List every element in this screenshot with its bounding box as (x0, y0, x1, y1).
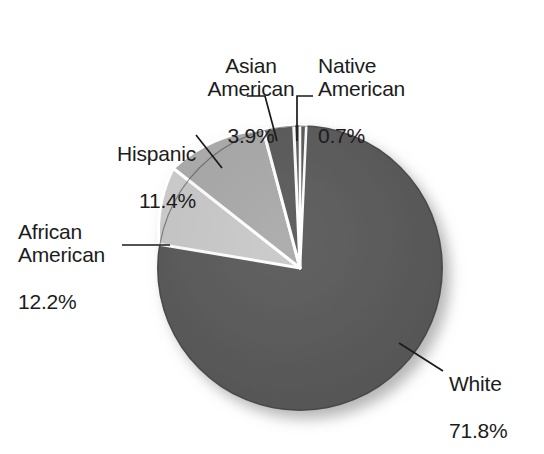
label-native-american: Native American 0.7% (318, 30, 448, 171)
label-white-name: White (449, 372, 539, 396)
label-african-american-value: 12.2% (18, 290, 168, 314)
label-asian-american-value: 3.9% (196, 124, 306, 148)
label-native-american-value: 0.7% (318, 124, 448, 148)
label-african-american: African American 12.2% (18, 196, 168, 337)
label-asian-american-name: Asian American (196, 54, 306, 101)
label-hispanic-name: Hispanic (88, 142, 196, 166)
pie-chart-figure: Asian American 3.9% Native American 0.7%… (0, 0, 544, 454)
label-native-american-name: Native American (318, 54, 448, 101)
label-african-american-name: African American (18, 220, 168, 267)
label-white-value: 71.8% (449, 419, 539, 443)
label-white: White 71.8% (449, 348, 539, 454)
label-asian-american: Asian American 3.9% (196, 30, 306, 171)
